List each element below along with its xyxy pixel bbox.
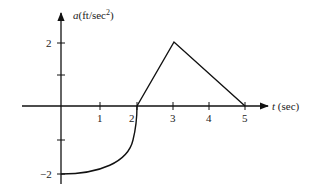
acceleration-time-chart: 1 2 3 4 5 2 −2 a)(ft/sec2) t (sec) [0, 0, 311, 194]
y-axis-label: a)(ft/sec2) [73, 8, 114, 22]
y-tick-label-2: 2 [46, 37, 52, 49]
x-axis-label: t (sec) [272, 100, 300, 113]
triangle-segment-2-to-5 [137, 42, 245, 106]
x-tick-label-5: 5 [242, 112, 248, 124]
x-tick-label-4: 4 [206, 112, 212, 124]
x-tick-label-3: 3 [170, 112, 176, 124]
x-tick-label-2: 2 [129, 112, 135, 124]
y-tick-label-neg2: −2 [40, 168, 52, 180]
x-tick-label-1: 1 [97, 112, 103, 124]
